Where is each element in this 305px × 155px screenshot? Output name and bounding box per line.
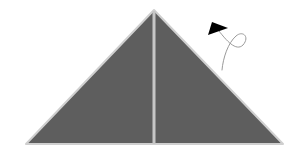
origami-diagram [0, 0, 305, 155]
